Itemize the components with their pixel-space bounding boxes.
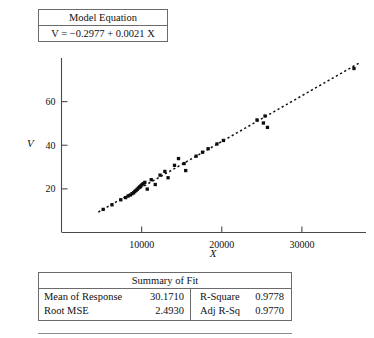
data-points <box>102 67 356 211</box>
data-point <box>182 162 185 165</box>
y-axis-ticks: 204060 <box>46 96 68 194</box>
data-point <box>163 170 166 173</box>
model-equation-title: Model Equation <box>39 10 167 26</box>
summary-row: Root MSE2.4930 <box>39 304 190 318</box>
next-table-top-edge <box>38 333 292 335</box>
summary-row-value: 30.1710 <box>150 290 184 304</box>
data-point <box>146 187 149 190</box>
y-tick-label: 40 <box>46 140 56 151</box>
data-point <box>352 67 355 70</box>
data-point <box>143 181 146 184</box>
summary-row: R-Square0.9778 <box>191 290 291 304</box>
data-point <box>201 151 204 154</box>
y-axis-title: V <box>27 137 35 149</box>
data-point <box>206 147 209 150</box>
summary-of-fit-grid: Mean of Response30.1710Root MSE2.4930 R-… <box>39 289 291 320</box>
summary-row-label: Mean of Response <box>44 290 122 304</box>
data-point <box>194 155 197 158</box>
summary-row-value: 0.9778 <box>255 290 284 304</box>
summary-row-value: 0.9770 <box>255 304 284 318</box>
x-tick-label: 30000 <box>289 239 314 250</box>
x-tick-label: 10000 <box>129 239 154 250</box>
summary-row-value: 2.4930 <box>155 304 184 318</box>
data-point <box>102 208 105 211</box>
data-point <box>262 121 265 124</box>
x-axis-title: X <box>209 247 218 259</box>
summary-row-label: R-Square <box>200 290 240 304</box>
summary-of-fit-title: Summary of Fit <box>39 273 291 289</box>
summary-of-fit-table: Summary of Fit Mean of Response30.1710Ro… <box>38 272 292 321</box>
data-point <box>222 139 225 142</box>
summary-row-label: Adj R-Sq <box>200 304 240 318</box>
x-axis-ticks: 100002000030000 <box>129 227 314 250</box>
scatter-plot: 204060 100002000030000 V X <box>0 44 374 259</box>
data-point <box>255 118 258 121</box>
data-point <box>177 157 180 160</box>
summary-column-left: Mean of Response30.1710Root MSE2.4930 <box>39 289 191 320</box>
summary-column-right: R-Square0.9778Adj R-Sq0.9770 <box>191 289 291 320</box>
data-point <box>184 169 187 172</box>
model-equation-formula: V = −0.2977 + 0.0021 X <box>39 26 167 41</box>
data-point <box>154 183 157 186</box>
plot-canvas: 204060 100002000030000 V X <box>0 44 374 259</box>
summary-row: Adj R-Sq0.9770 <box>191 304 291 318</box>
y-tick-label: 60 <box>46 96 56 107</box>
data-point <box>173 164 176 167</box>
data-point <box>150 178 153 181</box>
model-equation-box: Model Equation V = −0.2977 + 0.0021 X <box>38 9 168 42</box>
data-point <box>119 198 122 201</box>
summary-row: Mean of Response30.1710 <box>39 290 190 304</box>
data-point <box>166 176 169 179</box>
data-point <box>110 203 113 206</box>
y-tick-label: 20 <box>46 183 56 194</box>
summary-row-label: Root MSE <box>44 304 89 318</box>
data-point <box>266 126 269 129</box>
data-point <box>263 114 266 117</box>
data-point <box>158 173 161 176</box>
data-point <box>215 142 218 145</box>
